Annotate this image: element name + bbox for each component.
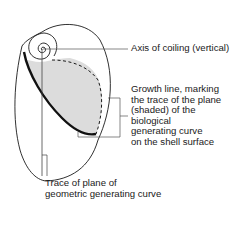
label-growth-line: Growth line, marking the trace of the pl…	[131, 84, 221, 148]
shaded-generating-plane	[26, 58, 102, 135]
label-trace-of-plane: Trace of plane of geometric generating c…	[45, 178, 161, 199]
label-axis-of-coiling: Axis of coiling (vertical)	[131, 43, 229, 54]
